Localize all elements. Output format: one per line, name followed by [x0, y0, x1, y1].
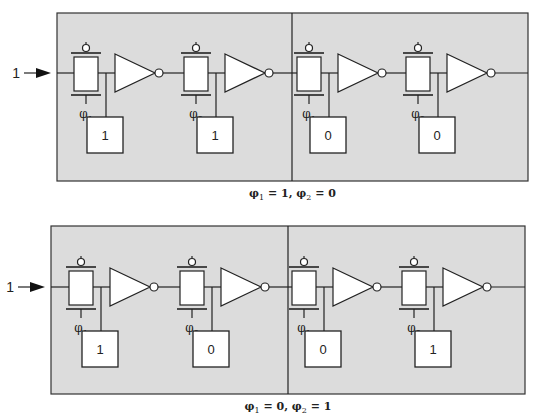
- stored-value: 1: [101, 128, 108, 143]
- inverter-bubble-icon: [378, 69, 386, 77]
- input-label: 1: [6, 279, 14, 295]
- inverter-bubble-icon: [155, 69, 163, 77]
- pmos-bubble-icon: [193, 45, 200, 52]
- inverter-bubble-icon: [483, 283, 491, 291]
- pmos-bubble-icon: [189, 259, 196, 266]
- caption-text: φ: [249, 187, 259, 200]
- panel-bottom: 1φ11φ20φ10φ21: [6, 226, 525, 394]
- input-label: 1: [12, 65, 20, 81]
- clock-state-caption: φ1 = 1, φ2 = 0: [249, 187, 336, 202]
- inverter-bubble-icon: [487, 69, 495, 77]
- caption-text: = 1: [307, 400, 332, 413]
- stored-value: 0: [433, 128, 440, 143]
- stored-value: 1: [211, 128, 218, 143]
- caption-text: φ: [245, 400, 255, 413]
- stored-value: 1: [429, 342, 436, 357]
- caption-text: φ: [292, 400, 302, 413]
- transmission-gate: [180, 271, 204, 305]
- pmos-bubble-icon: [415, 45, 422, 52]
- caption-text: = 1,: [264, 187, 296, 200]
- pmos-bubble-icon: [78, 259, 85, 266]
- clock-state-caption: φ1 = 0, φ2 = 1: [245, 400, 332, 414]
- inverter-bubble-icon: [150, 283, 158, 291]
- stored-value: 0: [324, 128, 331, 143]
- transmission-gate: [292, 271, 316, 305]
- transmission-gate: [74, 57, 98, 91]
- caption-text: = 0,: [260, 400, 292, 413]
- pmos-bubble-icon: [306, 45, 313, 52]
- stored-value: 1: [96, 342, 103, 357]
- shift-register-diagram: 1φ11φ21φ10φ20φ1 = 1, φ2 = 01φ11φ20φ10φ21…: [0, 0, 537, 414]
- caption-text: = 0: [311, 187, 336, 200]
- inverter-bubble-icon: [373, 283, 381, 291]
- stored-value: 0: [319, 342, 326, 357]
- transmission-gate: [184, 57, 208, 91]
- transmission-gate: [297, 57, 321, 91]
- transmission-gate: [406, 57, 430, 91]
- pmos-bubble-icon: [411, 259, 418, 266]
- transmission-gate: [402, 271, 426, 305]
- pmos-bubble-icon: [83, 45, 90, 52]
- caption-text: φ: [296, 187, 306, 200]
- inverter-bubble-icon: [265, 69, 273, 77]
- pmos-bubble-icon: [301, 259, 308, 266]
- inverter-bubble-icon: [261, 283, 269, 291]
- panel-top: 1φ11φ21φ10φ20: [12, 13, 528, 181]
- input-arrow-icon: [30, 282, 45, 292]
- transmission-gate: [69, 271, 93, 305]
- input-arrow-icon: [36, 68, 51, 78]
- stored-value: 0: [207, 342, 214, 357]
